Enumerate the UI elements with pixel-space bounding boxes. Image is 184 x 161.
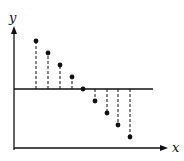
x-axis-label: x <box>172 140 180 155</box>
stems-group <box>34 39 133 140</box>
stem-point <box>81 87 86 92</box>
x-axis-arrow-icon <box>160 145 168 151</box>
stem-point <box>93 99 98 104</box>
stem-point <box>128 135 133 140</box>
stem-point <box>116 123 121 128</box>
y-axis-arrow-icon <box>11 26 17 34</box>
stem-diagram: y x <box>0 0 184 161</box>
stem-point <box>58 63 63 68</box>
stem-point <box>34 39 39 44</box>
stem-point <box>70 75 75 80</box>
stem-point <box>105 111 110 116</box>
y-axis-label: y <box>8 10 17 25</box>
stem-point <box>46 51 51 56</box>
